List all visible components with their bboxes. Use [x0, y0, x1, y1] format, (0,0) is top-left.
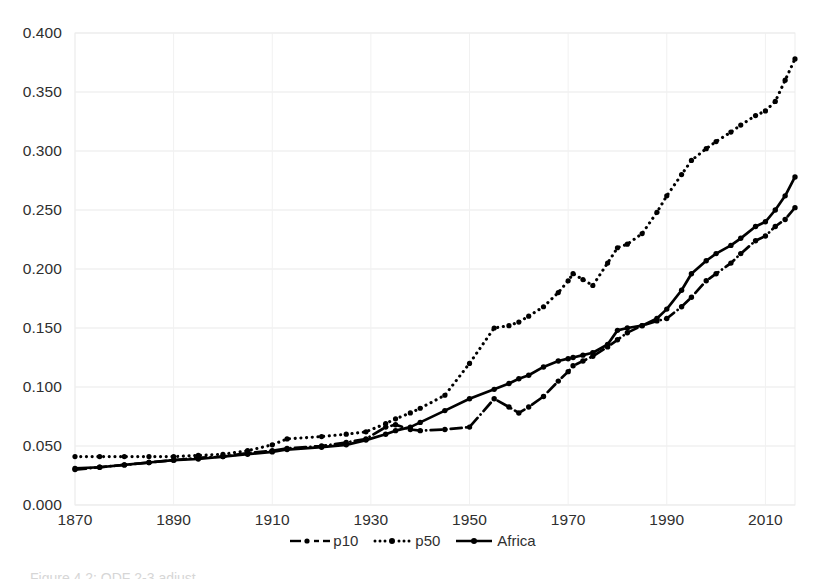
y-tick-label: 0.150	[0, 319, 62, 337]
series-layer	[72, 56, 797, 472]
legend-label-p50: p50	[415, 533, 440, 548]
x-tick-label: 2010	[748, 511, 783, 529]
x-tick-label: 1990	[649, 511, 684, 529]
x-tick-label: 1910	[255, 511, 290, 529]
y-tick-label: 0.000	[0, 496, 62, 514]
legend-swatch-dash-dot-icon	[290, 535, 330, 547]
y-tick-label: 0.400	[0, 24, 62, 42]
legend-label-p10: p10	[333, 533, 358, 548]
y-tick-label: 0.250	[0, 201, 62, 219]
legend-label-africa: Africa	[497, 533, 535, 548]
y-tick-label: 0.200	[0, 260, 62, 278]
legend-swatch-dotted-icon	[372, 535, 412, 547]
legend-swatch-solid-icon	[454, 535, 494, 547]
y-tick-label: 0.300	[0, 142, 62, 160]
y-tick-label: 0.050	[0, 437, 62, 455]
x-tick-label: 1950	[452, 511, 487, 529]
gridlines	[75, 33, 795, 505]
legend-item-p50[interactable]: p50	[372, 533, 440, 548]
legend-item-p10[interactable]: p10	[290, 533, 358, 548]
x-tick-label: 1890	[156, 511, 191, 529]
chart-plot-area	[0, 0, 826, 579]
chart-legend: p10 p50 Africa	[0, 533, 826, 548]
figure-caption: Figure 4.2: ODF 2-3 adjust	[30, 570, 196, 579]
x-tick-label: 1970	[551, 511, 586, 529]
y-tick-label: 0.350	[0, 83, 62, 101]
chart-figure: 0.0000.0500.1000.1500.2000.2500.3000.350…	[0, 0, 826, 579]
legend-item-africa[interactable]: Africa	[454, 533, 535, 548]
x-tick-label: 1930	[353, 511, 388, 529]
x-tick-label: 1870	[58, 511, 93, 529]
y-tick-label: 0.100	[0, 378, 62, 396]
